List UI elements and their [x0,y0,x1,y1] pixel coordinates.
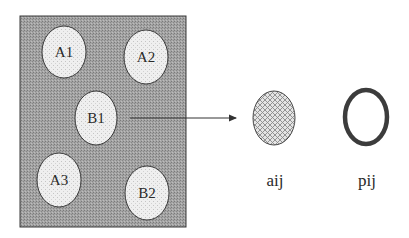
pij-ring-ellipse [345,90,387,144]
cell-b2-label: B2 [138,185,156,201]
aij-label: aij [267,171,284,190]
diagram-canvas: A1A2B1A3B2 aij pij [0,0,409,238]
cell-a3-label: A3 [50,172,68,188]
cell-b1-label: B1 [87,110,105,126]
aij-hatched-ellipse [253,91,295,145]
cell-a1-label: A1 [55,44,73,60]
cell-a2-label: A2 [137,49,155,65]
pij-label: pij [358,171,376,190]
